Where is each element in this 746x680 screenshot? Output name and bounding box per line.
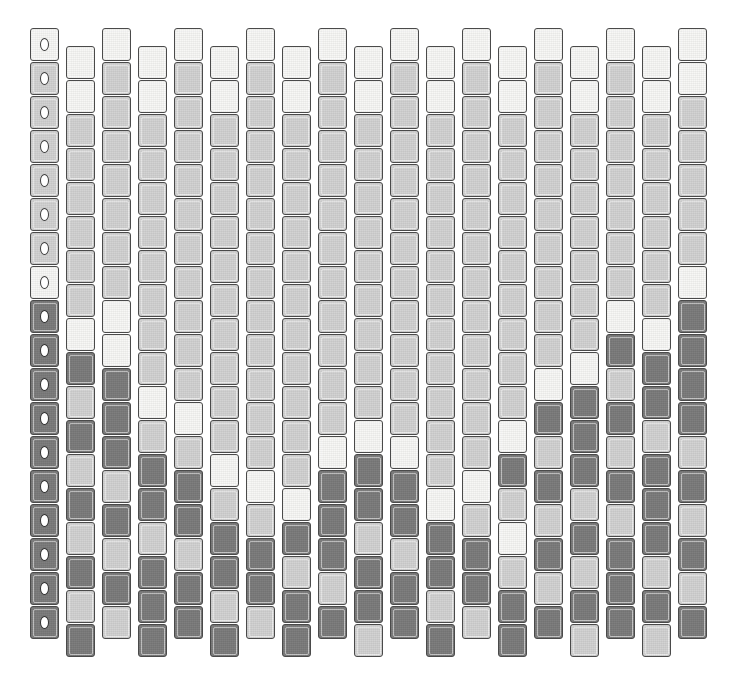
marker-tile <box>30 368 59 401</box>
tile <box>570 590 599 623</box>
tile <box>66 182 95 215</box>
marker-tile <box>30 334 59 367</box>
tile <box>102 504 131 537</box>
tile <box>210 216 239 249</box>
tile <box>318 266 347 299</box>
tile <box>354 46 383 79</box>
tile <box>678 300 707 333</box>
tile <box>498 318 527 351</box>
ring-marker-icon <box>40 378 49 391</box>
ring-marker-icon <box>40 106 49 119</box>
tile <box>426 182 455 215</box>
tile <box>318 504 347 537</box>
tile <box>642 624 671 657</box>
tile <box>426 624 455 657</box>
tile <box>354 216 383 249</box>
tile <box>498 284 527 317</box>
tile <box>282 80 311 113</box>
tile <box>354 352 383 385</box>
tile <box>570 46 599 79</box>
tile <box>210 352 239 385</box>
tile <box>138 114 167 147</box>
tile <box>174 266 203 299</box>
tile <box>138 352 167 385</box>
tile <box>606 62 635 95</box>
tile <box>102 198 131 231</box>
tile <box>102 300 131 333</box>
tile <box>174 606 203 639</box>
tile <box>246 96 275 129</box>
tile <box>210 114 239 147</box>
tile <box>138 216 167 249</box>
tile <box>606 266 635 299</box>
tile <box>246 368 275 401</box>
tile <box>66 148 95 181</box>
tile <box>390 572 419 605</box>
tile <box>354 250 383 283</box>
tile <box>246 436 275 469</box>
marker-tile <box>30 436 59 469</box>
tile <box>462 266 491 299</box>
tile <box>318 232 347 265</box>
tile <box>282 46 311 79</box>
tile <box>498 352 527 385</box>
tile <box>354 624 383 657</box>
tile <box>282 420 311 453</box>
tile <box>426 454 455 487</box>
tile <box>606 96 635 129</box>
tile <box>426 46 455 79</box>
tile <box>570 284 599 317</box>
tile <box>462 232 491 265</box>
tile <box>606 232 635 265</box>
tile <box>354 318 383 351</box>
tile <box>354 148 383 181</box>
tile <box>246 402 275 435</box>
tile <box>678 402 707 435</box>
tile <box>318 130 347 163</box>
tile <box>426 114 455 147</box>
tile <box>642 216 671 249</box>
tile <box>642 590 671 623</box>
tile <box>678 538 707 571</box>
tile <box>102 470 131 503</box>
tile <box>390 300 419 333</box>
tile <box>678 130 707 163</box>
tile <box>534 130 563 163</box>
tile <box>534 334 563 367</box>
marker-tile <box>30 198 59 231</box>
tile <box>642 182 671 215</box>
tile <box>66 420 95 453</box>
tile <box>174 470 203 503</box>
tile <box>246 572 275 605</box>
tile <box>642 556 671 589</box>
tile <box>174 232 203 265</box>
tile <box>246 334 275 367</box>
tile <box>318 198 347 231</box>
tile <box>570 522 599 555</box>
tile <box>462 164 491 197</box>
tile <box>498 250 527 283</box>
tile <box>354 182 383 215</box>
tile <box>498 420 527 453</box>
tile <box>102 368 131 401</box>
tile <box>426 80 455 113</box>
tile <box>66 488 95 521</box>
tile <box>642 250 671 283</box>
tile <box>570 556 599 589</box>
tile <box>318 572 347 605</box>
tile <box>390 334 419 367</box>
tile <box>210 590 239 623</box>
tile <box>606 368 635 401</box>
tile <box>390 436 419 469</box>
tile <box>282 284 311 317</box>
tile <box>642 488 671 521</box>
tile <box>606 300 635 333</box>
tile <box>138 284 167 317</box>
tile <box>390 538 419 571</box>
tile <box>66 352 95 385</box>
tile <box>678 368 707 401</box>
tile <box>534 198 563 231</box>
tile <box>534 606 563 639</box>
tile <box>318 334 347 367</box>
tile <box>174 300 203 333</box>
